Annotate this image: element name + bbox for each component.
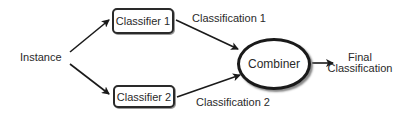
classifier-1-node: Classifier 1 — [112, 8, 174, 34]
final-classification-node: Final Classification — [325, 52, 395, 74]
classification-2-edge-label: Classification 2 — [196, 96, 270, 108]
instance-node-label: Instance — [20, 51, 62, 63]
combiner-node: Combiner — [237, 38, 311, 90]
classification-1-edge-label: Classification 1 — [192, 12, 266, 24]
arrow-classifier2-to-combiner — [177, 75, 240, 97]
arrow-classifier1-to-combiner — [176, 20, 238, 49]
arrow-instance-to-classifier2 — [70, 64, 109, 94]
classifier-2-node: Classifier 2 — [113, 85, 175, 108]
final-label-line2: Classification — [325, 63, 395, 74]
ensemble-classifier-diagram: Instance Classifier 1 Classifier 2 Class… — [0, 0, 416, 114]
arrow-instance-to-classifier1 — [70, 20, 109, 52]
combiner-label: Combiner — [248, 57, 300, 71]
classifier-2-label: Classifier 2 — [117, 91, 171, 103]
classifier-1-label: Classifier 1 — [116, 15, 170, 27]
